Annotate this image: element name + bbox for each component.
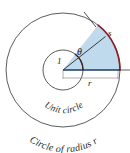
inner-circle-caption: Unit circle [43,100,85,116]
theta-label: θ [77,46,82,57]
unit-radius-label: 1 [57,56,62,66]
terminal-ray-extension [84,12,96,27]
geometry-figure: θ s 1 r Unit circle Circle of radius r [0,0,130,153]
outer-circle-caption-text: Circle of radius r [28,134,99,153]
outer-circle-caption: Circle of radius r [28,134,99,153]
arc-length-label: s [108,28,112,38]
inner-circle-caption-text: Unit circle [43,100,85,116]
figure-canvas: θ s 1 r Unit circle Circle of radius r [0,0,130,153]
radius-label: r [88,78,92,88]
